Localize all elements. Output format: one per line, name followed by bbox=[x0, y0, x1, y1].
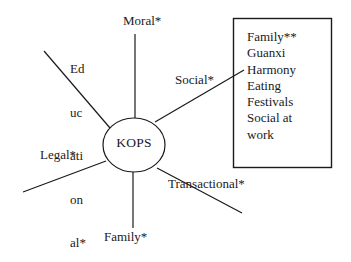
detail-box-item-harmony: Harmony bbox=[247, 62, 297, 78]
diagram-lines-layer bbox=[0, 0, 351, 262]
spoke-label-legal: Legal* bbox=[40, 148, 76, 162]
hub-label: KOPS bbox=[103, 135, 165, 151]
spoke-label-social: Social* bbox=[175, 73, 214, 87]
diagram-canvas: KOPS Moral* Ed uc ati on al* Social* Leg… bbox=[0, 0, 351, 262]
spoke-label-educational-line-2: uc bbox=[70, 106, 86, 121]
detail-box-item-guanxi: Guanxi bbox=[247, 45, 297, 61]
spoke-label-educational-line-1: Ed bbox=[70, 62, 86, 77]
spoke-line-legal bbox=[23, 161, 106, 192]
spoke-label-educational-line-4: on bbox=[70, 193, 86, 208]
detail-box-item-social-at: Social at bbox=[247, 110, 297, 126]
detail-box-item-festivals: Festivals bbox=[247, 94, 297, 110]
spoke-label-transactional: Transactional* bbox=[168, 177, 245, 191]
detail-box-item-family: Family** bbox=[247, 29, 297, 45]
spoke-label-family: Family* bbox=[104, 230, 147, 244]
detail-box-item-eating: Eating bbox=[247, 78, 297, 94]
spoke-label-moral: Moral* bbox=[123, 14, 161, 28]
detail-box-item-work: work bbox=[247, 127, 297, 143]
detail-box-list: Family** Guanxi Harmony Eating Festivals… bbox=[247, 29, 297, 143]
spoke-label-educational-line-5: al* bbox=[70, 236, 86, 251]
